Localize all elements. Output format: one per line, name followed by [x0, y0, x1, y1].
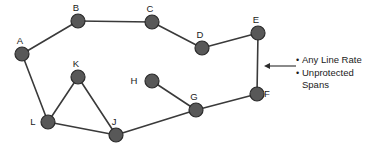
annotation-text: Any Line Rate: [302, 54, 380, 66]
edge-b-c: [78, 21, 152, 22]
edge-f-g: [196, 94, 257, 110]
edge-j-k: [78, 77, 116, 135]
node-f-label: F: [264, 88, 270, 99]
edge-d-e: [202, 33, 258, 48]
callout-arrow: [264, 63, 296, 69]
node-k-circle[interactable]: [71, 70, 85, 84]
node-f[interactable]: F: [250, 87, 270, 101]
node-c[interactable]: C: [145, 3, 159, 29]
edge-g-j: [116, 110, 196, 135]
node-e-label: E: [253, 14, 259, 25]
node-a-circle[interactable]: [15, 47, 29, 61]
node-l[interactable]: L: [30, 115, 55, 129]
annotation-item: •Unprotected Spans: [296, 67, 380, 91]
node-g-circle[interactable]: [189, 103, 203, 117]
node-e[interactable]: E: [251, 14, 265, 40]
node-j-circle[interactable]: [109, 128, 123, 142]
annotation-text: Unprotected Spans: [302, 67, 380, 91]
node-c-circle[interactable]: [145, 15, 159, 29]
node-k-label: K: [73, 58, 80, 69]
node-h[interactable]: H: [131, 74, 159, 88]
node-f-circle[interactable]: [250, 87, 264, 101]
callout-arrow-head: [264, 63, 270, 69]
annotation-item: •Any Line Rate: [296, 54, 380, 66]
edge-c-d: [152, 22, 202, 48]
node-b-circle[interactable]: [71, 14, 85, 28]
edge-j-l: [48, 122, 116, 135]
node-d-label: D: [197, 29, 204, 40]
network-diagram: ABCDEFGHJKL •Any Line Rate•Unprotected S…: [0, 0, 380, 154]
annotation-list: •Any Line Rate•Unprotected Spans: [296, 54, 380, 92]
node-b[interactable]: B: [71, 2, 85, 28]
node-e-circle[interactable]: [251, 26, 265, 40]
node-d[interactable]: D: [195, 29, 209, 55]
node-k[interactable]: K: [71, 58, 85, 84]
edge-l-a: [22, 54, 48, 122]
node-a-label: A: [17, 35, 24, 46]
edge-k-l: [48, 77, 78, 122]
node-layer: ABCDEFGHJKL: [15, 2, 270, 142]
node-d-circle[interactable]: [195, 41, 209, 55]
node-l-circle[interactable]: [41, 115, 55, 129]
edge-e-f: [257, 33, 258, 94]
node-h-label: H: [131, 75, 138, 86]
edge-layer: [22, 21, 258, 135]
edge-a-b: [22, 21, 78, 54]
node-l-label: L: [30, 116, 35, 127]
node-g-label: G: [190, 91, 197, 102]
node-b-label: B: [73, 2, 79, 13]
node-g[interactable]: G: [189, 91, 203, 117]
node-a[interactable]: A: [15, 35, 29, 61]
node-h-circle[interactable]: [145, 74, 159, 88]
node-c-label: C: [147, 3, 154, 14]
node-j-label: J: [112, 116, 117, 127]
node-j[interactable]: J: [109, 116, 123, 142]
